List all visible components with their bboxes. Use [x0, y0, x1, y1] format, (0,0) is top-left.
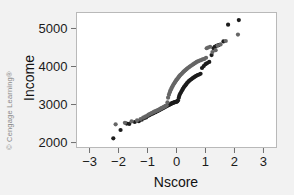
- data-point: [118, 128, 122, 132]
- data-point: [198, 72, 202, 76]
- x-tick-label: 1: [202, 154, 209, 169]
- x-axis-title: Nscore: [154, 174, 199, 190]
- x-tick-label: 0: [173, 154, 180, 169]
- data-point: [226, 23, 230, 27]
- copyright-credit: © Cengage Learning®: [5, 71, 14, 150]
- data-point: [111, 136, 115, 140]
- y-axis-title: Income: [21, 55, 37, 101]
- x-tick-label: −3: [82, 154, 97, 169]
- data-point: [204, 56, 208, 60]
- data-point: [236, 32, 240, 36]
- x-tick-label: 3: [260, 154, 267, 169]
- y-tick-label: 5000: [39, 21, 68, 36]
- y-tick-label: 2000: [39, 135, 68, 150]
- x-tick-label: −1: [140, 154, 155, 169]
- figure-container: −3−2−10123 2000300040005000 Nscore Incom…: [0, 0, 294, 195]
- data-point: [165, 100, 169, 104]
- data-point: [214, 48, 218, 52]
- y-tick-label: 4000: [39, 59, 68, 74]
- scatter-plot: −3−2−10123 2000300040005000 Nscore Incom…: [0, 0, 294, 195]
- data-point: [208, 45, 212, 49]
- data-point: [129, 119, 133, 123]
- data-point: [218, 42, 222, 46]
- data-point: [123, 121, 127, 125]
- data-point: [237, 18, 241, 22]
- x-tick-label: −2: [111, 154, 126, 169]
- data-point: [114, 122, 118, 126]
- data-point: [224, 39, 228, 43]
- y-tick-label: 3000: [39, 97, 68, 112]
- x-tick-label: 2: [231, 154, 238, 169]
- data-point: [207, 60, 211, 64]
